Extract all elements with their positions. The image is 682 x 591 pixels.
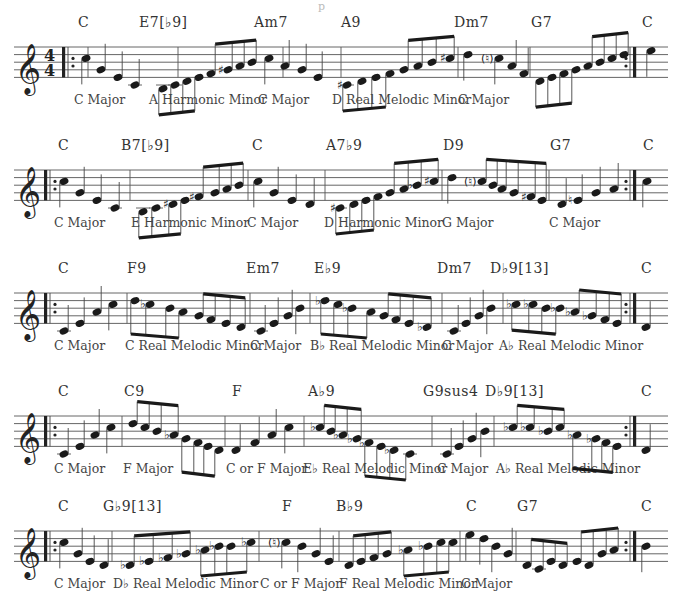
accidental: ♭ [520, 420, 526, 434]
accidental: ♭ [158, 551, 164, 565]
staff: 𝄞♭♭♭♭♭♭♭(♮)♭♭ [0, 494, 682, 591]
accidental: ♭ [565, 305, 571, 319]
accidental: ♭ [333, 428, 339, 442]
staff-system: CE7[♭9]Am7A9Dm7G7CC MajorA Harmonic Mino… [0, 10, 682, 120]
accidental: ♯ [424, 174, 430, 188]
time-signature: 4 [44, 61, 55, 80]
accidental: ♭ [398, 543, 404, 557]
staff: 𝄞♯♯♯♭♯(♮)♯♮ [0, 133, 682, 243]
accidental: ♭ [315, 294, 321, 308]
accidental: ♭ [139, 554, 145, 568]
accidental: ♭ [503, 420, 509, 434]
accidental: ♭ [550, 301, 556, 315]
accidental: ♭ [384, 443, 390, 457]
accidental: ♭ [176, 547, 182, 561]
accidental: ♭ [140, 297, 146, 311]
staff: 𝄞44♯♯♯(♮) [0, 10, 682, 120]
accidental: ♭ [120, 558, 126, 572]
accidental: ♭ [506, 297, 512, 311]
accidental: ♯ [521, 190, 527, 204]
accidental: ♭ [418, 539, 424, 553]
staff-system: CF9Em7E♭9Dm7D♭9[13]CC MajorC Real Melodi… [0, 256, 682, 366]
staff: 𝄞♭♭♭♭♭♭♭♭♭♭♭ [0, 379, 682, 489]
accidental: ♭ [310, 420, 316, 434]
accidental: ♭ [586, 432, 592, 446]
accidental: ♭ [209, 539, 215, 553]
accidental: ♭ [342, 301, 348, 315]
accidental: ♯ [337, 78, 343, 92]
treble-clef-icon: 𝄞 [15, 526, 41, 580]
accidental: (♮) [464, 175, 477, 188]
accidental: ♭ [567, 428, 573, 442]
accidental: ♭ [195, 543, 201, 557]
accidental: ♭ [582, 309, 588, 323]
treble-clef-icon: 𝄞 [15, 165, 41, 219]
accidental: ♯ [163, 197, 169, 211]
accidental: ♭ [359, 436, 365, 450]
accidental: ♭ [347, 432, 353, 446]
treble-clef-icon: 𝄞 [15, 288, 41, 342]
accidental: ♭ [523, 297, 529, 311]
accidental: ♭ [417, 320, 423, 334]
accidental: ♭ [164, 428, 170, 442]
accidental: ♭ [241, 535, 247, 549]
staff-system: CC9FA♭9G9sus4D♭9[13]CC MajorF MajorC or … [0, 379, 682, 489]
accidental: ♯ [218, 63, 224, 77]
treble-clef-icon: 𝄞 [15, 42, 41, 96]
accidental: (♮) [481, 52, 494, 65]
accidental: ♮ [568, 193, 572, 207]
staff: 𝄞♭♭♭♭♭♭♭♭♭ [0, 256, 682, 366]
accidental: ♯ [440, 51, 446, 65]
accidental: ♯ [189, 190, 195, 204]
staff-system: CG♭9[13]FB♭9CG7CC MajorD♭ Real Melodic M… [0, 494, 682, 591]
accidental: ♭ [538, 424, 544, 438]
treble-clef-icon: 𝄞 [15, 411, 41, 465]
accidental: ♯ [330, 201, 336, 215]
accidental: (♮) [268, 536, 281, 549]
staff-system: CB7[♭9]CA7♭9D9G7CC MajorE Harmonic Minor… [0, 133, 682, 243]
